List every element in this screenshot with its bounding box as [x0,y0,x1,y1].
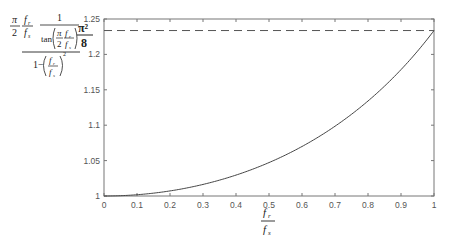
svg-text:r: r [53,61,55,66]
x-tick-label: 0.6 [296,200,308,210]
x-tick-label: 0.3 [197,200,209,210]
svg-text:s: s [28,33,31,39]
svg-text:r: r [28,20,31,26]
svg-text:8: 8 [81,36,87,50]
x-tick-label: 0 [102,200,107,210]
chart: 00.10.20.30.40.50.60.70.80.91 11.051.11.… [0,0,456,242]
x-tick-label: 0.7 [329,200,341,210]
x-tick-label: 0.8 [362,200,374,210]
pi-squared-over-8-annotation: π² 8 [77,21,93,50]
svg-text:s: s [69,45,71,50]
svg-text:2: 2 [12,27,17,38]
svg-text:π: π [57,28,62,38]
svg-text:π²: π² [78,21,89,35]
svg-text:r: r [268,212,271,220]
x-tick-label: 0.2 [164,200,176,210]
y-tick-label: 1.2 [88,49,100,59]
x-tick-label: 0.4 [230,200,242,210]
x-axis-label-formula: f r f s [261,206,275,237]
svg-text:tan: tan [41,34,52,44]
y-tick-label: 1.15 [83,85,100,95]
plot-area [104,19,434,196]
svg-text:π: π [12,14,18,25]
y-tick-label: 1.1 [88,120,100,130]
x-tick-label: 0.9 [395,200,407,210]
svg-text:1−: 1− [33,59,44,70]
x-tick-label: 0.1 [131,200,143,210]
svg-text:s: s [268,229,271,237]
svg-text:1: 1 [57,12,62,23]
y-tick-label: 1.05 [83,156,100,166]
svg-text:2: 2 [63,51,66,57]
x-tick-label: 1 [432,200,437,210]
y-axis-label-formula: π 2 f r f s 1 tan π 2 f r f s 1− f r f s… [10,12,80,78]
svg-text:s: s [53,73,55,78]
svg-text:2: 2 [57,39,62,49]
y-tick-label: 1 [95,191,100,201]
